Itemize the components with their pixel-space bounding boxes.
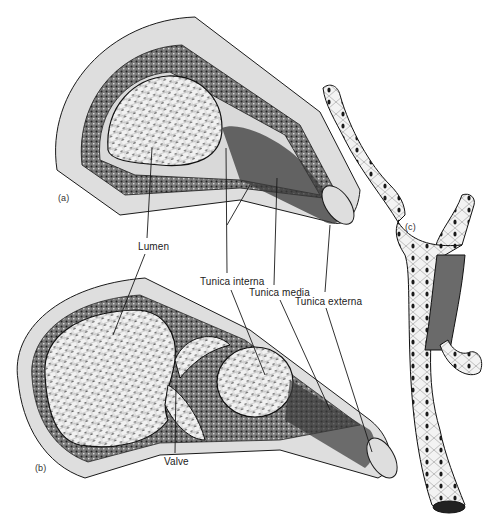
panel-label-a: (a) bbox=[58, 194, 69, 203]
label-tunica-externa: Tunica externa bbox=[295, 297, 362, 307]
vessel-illustration bbox=[0, 0, 491, 520]
label-tunica-interna: Tunica interna bbox=[200, 277, 264, 287]
blood-vessel-diagram: (a) (b) (c) Lumen Tunica interna Tunica … bbox=[0, 0, 491, 520]
artery-drawing bbox=[56, 17, 361, 230]
vein-drawing bbox=[17, 278, 403, 483]
label-lumen: Lumen bbox=[138, 242, 169, 252]
panel-label-c: (c) bbox=[405, 223, 416, 232]
label-valve: Valve bbox=[164, 457, 189, 467]
panel-label-b: (b) bbox=[35, 464, 46, 473]
